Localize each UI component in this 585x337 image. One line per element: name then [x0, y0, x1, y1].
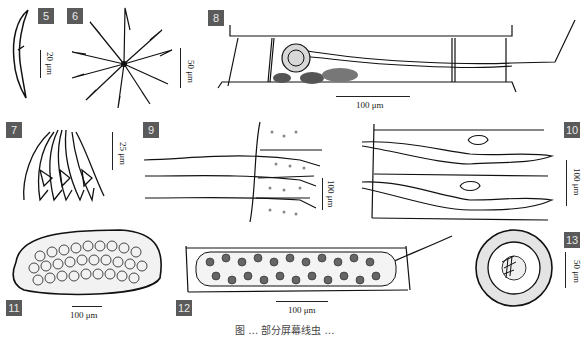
scale-bar-13 — [565, 252, 566, 288]
scale-text-13: 50 μm — [572, 260, 582, 283]
figure-caption: 图 … 部分屏幕线虫 … — [235, 322, 335, 337]
